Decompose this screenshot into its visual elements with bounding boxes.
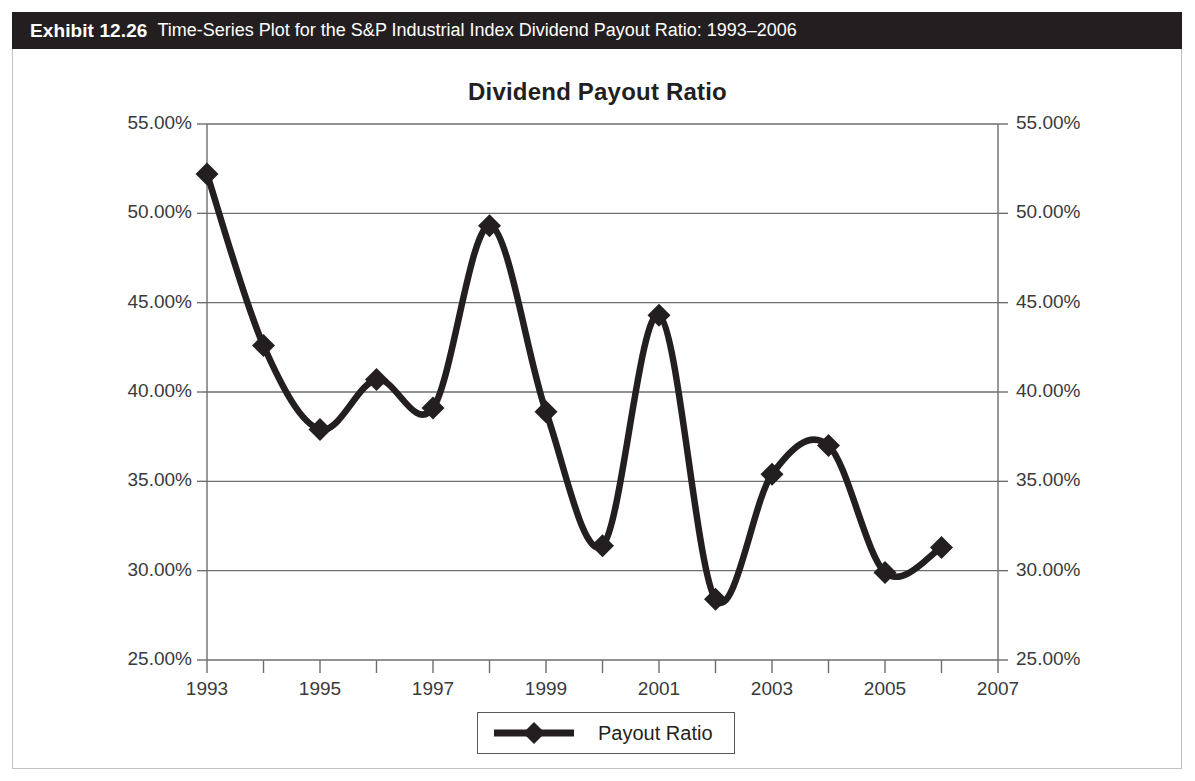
exhibit-caption: Time-Series Plot for the S&P Industrial … <box>157 20 796 41</box>
y-axis-right-tick-50: 50.00% <box>1016 201 1136 223</box>
y-axis-left-tick-35: 35.00% <box>72 469 192 491</box>
y-axis-left-tick-30: 30.00% <box>72 559 192 581</box>
x-axis-tick-2003: 2003 <box>727 678 817 700</box>
x-axis-tick-2007: 2007 <box>953 678 1043 700</box>
exhibit-figure: Exhibit 12.26 Time-Series Plot for the S… <box>0 0 1195 781</box>
chart-legend: Payout Ratio <box>477 712 735 754</box>
exhibit-number: Exhibit 12.26 <box>30 20 147 42</box>
y-axis-right-tick-55: 55.00% <box>1016 112 1136 134</box>
legend-marker-icon <box>488 720 580 746</box>
exhibit-header-bar: Exhibit 12.26 Time-Series Plot for the S… <box>12 12 1182 49</box>
y-axis-left-tick-40: 40.00% <box>72 380 192 402</box>
y-axis-right-tick-40: 40.00% <box>1016 380 1136 402</box>
legend-label-payout-ratio: Payout Ratio <box>598 722 713 745</box>
chart-title: Dividend Payout Ratio <box>0 78 1195 106</box>
y-axis-left-tick-25: 25.00% <box>72 648 192 670</box>
y-axis-left-tick-55: 55.00% <box>72 112 192 134</box>
x-axis-tick-1997: 1997 <box>388 678 478 700</box>
y-axis-right-tick-30: 30.00% <box>1016 559 1136 581</box>
y-axis-left-tick-45: 45.00% <box>72 291 192 313</box>
x-axis-tick-1993: 1993 <box>162 678 252 700</box>
x-axis-tick-1995: 1995 <box>275 678 365 700</box>
y-axis-left-tick-50: 50.00% <box>72 201 192 223</box>
y-axis-right-tick-45: 45.00% <box>1016 291 1136 313</box>
x-axis-tick-2001: 2001 <box>614 678 704 700</box>
y-axis-right-tick-35: 35.00% <box>1016 469 1136 491</box>
x-axis-tick-1999: 1999 <box>501 678 591 700</box>
y-axis-right-tick-25: 25.00% <box>1016 648 1136 670</box>
x-axis-tick-2005: 2005 <box>840 678 930 700</box>
